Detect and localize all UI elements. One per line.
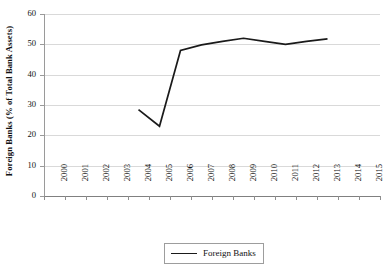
gridline (44, 105, 380, 106)
x-tick-label: 2013 (332, 164, 342, 204)
x-tick-label: 2000 (59, 164, 69, 204)
y-tick-mark (40, 14, 44, 15)
line-chart: Foreign Banks (% of Total Bank Assets) 0… (0, 0, 385, 268)
x-tick-label: 2001 (80, 164, 90, 204)
y-tick-label: 40 (12, 70, 36, 79)
x-tick-label: 2010 (269, 164, 279, 204)
x-tick-label: 2012 (311, 164, 321, 204)
x-tick-mark (149, 196, 150, 200)
x-tick-label: 2008 (227, 164, 237, 204)
x-tick-label: 2005 (164, 164, 174, 204)
y-tick-label: 0 (12, 191, 36, 200)
gridline (44, 75, 380, 76)
y-tick-label: 50 (12, 39, 36, 48)
x-tick-mark (380, 196, 381, 200)
y-tick-mark (40, 166, 44, 167)
x-tick-label: 2011 (290, 164, 300, 204)
x-tick-mark (233, 196, 234, 200)
x-tick-mark (359, 196, 360, 200)
y-tick-label: 60 (12, 9, 36, 18)
x-tick-mark (44, 196, 45, 200)
y-tick-label: 20 (12, 130, 36, 139)
y-axis-line (44, 14, 45, 197)
y-tick-mark (40, 105, 44, 106)
y-tick-mark (40, 135, 44, 136)
gridline (44, 14, 380, 15)
y-tick-mark (40, 75, 44, 76)
x-tick-mark (107, 196, 108, 200)
chart-legend[interactable]: Foreign Banks (164, 243, 264, 264)
x-tick-mark (191, 196, 192, 200)
x-tick-mark (338, 196, 339, 200)
x-tick-mark (128, 196, 129, 200)
x-tick-mark (86, 196, 87, 200)
x-tick-mark (212, 196, 213, 200)
x-tick-label: 2004 (143, 164, 153, 204)
y-tick-mark (40, 44, 44, 45)
x-tick-label: 2014 (353, 164, 363, 204)
x-tick-mark (296, 196, 297, 200)
data-line-foreign-banks (139, 38, 328, 126)
legend-line-swatch (171, 253, 197, 254)
x-tick-mark (317, 196, 318, 200)
x-tick-mark (254, 196, 255, 200)
x-tick-mark (65, 196, 66, 200)
x-tick-label: 2006 (185, 164, 195, 204)
x-tick-label: 2015 (374, 164, 384, 204)
x-tick-label: 2007 (206, 164, 216, 204)
series-foreign-banks (0, 0, 385, 268)
x-tick-mark (170, 196, 171, 200)
y-tick-label: 10 (12, 161, 36, 170)
x-tick-mark (275, 196, 276, 200)
gridline (44, 44, 380, 45)
x-tick-label: 2009 (248, 164, 258, 204)
x-tick-label: 2003 (122, 164, 132, 204)
legend-item-label: Foreign Banks (203, 249, 256, 258)
y-tick-label: 30 (12, 100, 36, 109)
gridline (44, 135, 380, 136)
x-tick-label: 2002 (101, 164, 111, 204)
